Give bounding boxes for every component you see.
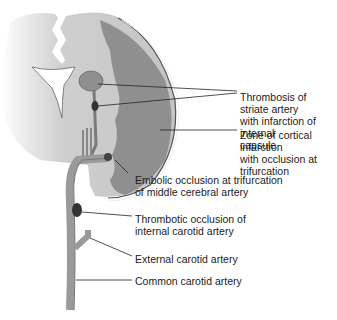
striate-occlusion (92, 101, 99, 111)
label-common-carotid: Common carotid artery (135, 275, 242, 287)
label-embolic-occlusion: Embolic occlusion at trifurcation of mid… (135, 174, 283, 198)
label-external-carotid: External carotid artery (135, 253, 238, 265)
embolic-occlusion (104, 153, 112, 161)
label-thrombotic-occlusion: Thrombotic occlusion of internal carotid… (135, 213, 246, 237)
label-cortical-infarction: Zone of cortical infarction with occlusi… (240, 129, 337, 177)
carotid-occlusion (72, 203, 82, 217)
external-carotid (75, 230, 88, 248)
